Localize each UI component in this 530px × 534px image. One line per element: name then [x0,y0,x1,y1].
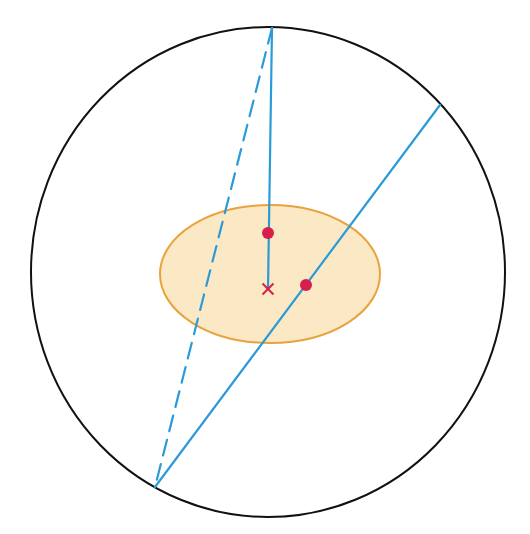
geometry-diagram [0,0,530,534]
point-dot-right [300,279,312,291]
point-dot-upper [262,227,274,239]
